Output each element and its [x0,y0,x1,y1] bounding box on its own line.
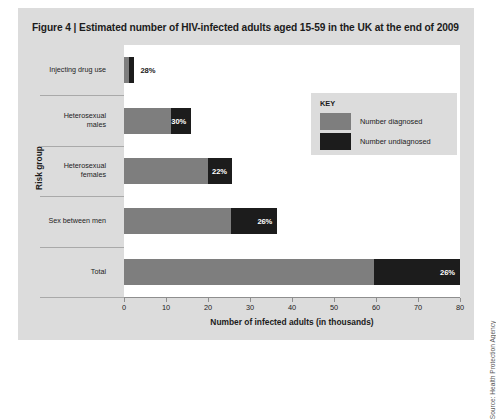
category-separator [40,297,124,298]
x-axis-tick [208,298,209,302]
bar-value-label: 26% [231,217,277,226]
legend-swatch-diagnosed [320,113,351,130]
category-label-column: Injecting drug use Heterosexualmales Het… [36,45,106,303]
legend: KEY Number diagnosed Number undiagnosed [311,93,457,155]
bar-value-label: 30% [171,116,191,125]
bar-segment-undiagnosed [129,57,134,83]
x-axis-tick [334,298,335,302]
category-label-total: Total [36,268,106,277]
x-axis-tick [124,298,125,302]
bar-segment-diagnosed [124,208,231,234]
x-axis-tick-label: 80 [448,303,472,312]
bar-injecting-drug-use [124,57,135,83]
legend-label-undiagnosed: Number undiagnosed [360,137,431,146]
legend-label-diagnosed: Number diagnosed [360,117,422,126]
category-label-heterosexual-males: Heterosexualmales [36,112,106,129]
x-axis-tick-label: 60 [364,303,388,312]
bar-segment-diagnosed [124,108,171,134]
x-axis-tick-label: 50 [322,303,346,312]
legend-swatch-undiagnosed [320,133,351,150]
bar-segment-diagnosed [124,259,374,285]
source-credit: Source: Health Protection Agency [489,321,496,419]
x-axis-tick [376,298,377,302]
x-axis-tick-label: 0 [112,303,136,312]
category-separator [40,146,124,147]
x-axis-tick [460,298,461,302]
plot-area: 28%30%22%26%26% [124,45,460,297]
figure-card: Figure 4 | Estimated number of HIV-infec… [18,8,474,340]
bar-value-label: 26% [374,267,460,276]
x-axis-tick [292,298,293,302]
x-axis-tick-label: 30 [238,303,262,312]
page-title: Figure 4 | Estimated number of HIV-infec… [32,22,462,33]
category-label-sex-between-men: Sex between men [36,217,106,226]
x-axis-tick-label: 10 [154,303,178,312]
category-label-injecting-drug-use: Injecting drug use [36,66,106,75]
legend-title: KEY [320,99,335,108]
x-axis-tick-label: 20 [196,303,220,312]
category-label-heterosexual-females: Heterosexualfemales [36,162,106,179]
x-axis-title: Number of infected adults (in thousands) [124,317,460,327]
x-axis-tick [166,298,167,302]
bar-value-label: 28% [141,66,156,75]
chart-area: Risk group Injecting drug use Heterosexu… [18,45,474,340]
x-axis-tick [250,298,251,302]
bar-segment-diagnosed [124,158,208,184]
x-axis-tick-label: 40 [280,303,304,312]
bar-value-label: 22% [208,167,232,176]
x-axis-tick [418,298,419,302]
category-separator [40,196,124,197]
category-separator [40,95,124,96]
category-separator [40,247,124,248]
x-axis-tick-label: 70 [406,303,430,312]
